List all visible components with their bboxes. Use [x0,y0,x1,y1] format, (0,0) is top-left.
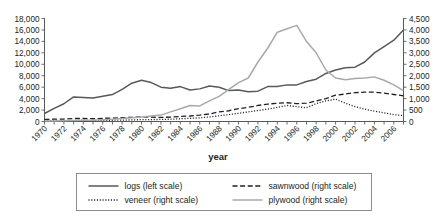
legend-label: veneer (right scale) [125,195,199,205]
line-chart: 02,0004,0006,0008,00010,00012,00014,0001… [0,0,447,217]
x-axis-tick-label: 1994 [263,124,283,144]
x-axis-tick-label: 1984 [166,124,186,144]
x-axis-tick-label: 1990 [224,124,244,144]
left-axis-tick-label: 18,000 [14,15,39,24]
right-axis-tick-label: 1,000 [409,95,430,104]
left-axis-tick-label: 8,000 [19,72,40,81]
right-axis-tick-label: 0 [409,118,414,127]
x-axis-tick-label: 1998 [302,124,322,144]
right-axis-tick-label: 4,500 [409,15,430,24]
x-axis-tick-label: 1988 [205,124,225,144]
left-axis-tick-label: 12,000 [14,49,39,58]
x-axis-tick-label: 2004 [360,124,380,144]
x-axis-tick-label: 2006 [379,124,399,144]
right-axis-tick-label: 4,000 [409,26,430,35]
right-axis-tick-label: 1,500 [409,83,430,92]
x-axis-tick-label: 1972 [49,124,69,144]
x-axis-tick-label: 1996 [282,124,302,144]
x-axis-tick-label: 1980 [127,124,147,144]
right-axis-tick-label: 3,500 [409,37,430,46]
x-axis-tick-label: 1976 [88,124,108,144]
left-axis-tick-label: 0 [35,118,40,127]
legend-label: logs (left scale) [125,181,183,191]
series-line-veneer [45,99,404,121]
left-axis-tick-label: 2,000 [19,106,40,115]
series-line-logs [45,30,404,114]
x-axis-title: year [208,151,228,162]
right-axis-tick-label: 2,000 [409,72,430,81]
right-axis-tick-label: 500 [409,106,423,115]
right-axis-tick-label: 3,000 [409,49,430,58]
x-axis-tick-label: 2000 [321,124,341,144]
left-axis-tick-label: 6,000 [19,83,40,92]
legend-label: plywood (right scale) [269,195,348,205]
left-axis-tick-label: 14,000 [14,37,39,46]
left-axis-tick-label: 16,000 [14,26,39,35]
right-axis-tick-label: 2,500 [409,60,430,69]
x-axis-tick-label: 1986 [185,124,205,144]
left-axis-tick-label: 4,000 [19,95,40,104]
x-axis-tick-label: 1970 [30,124,50,144]
x-axis-tick-label: 1978 [107,124,127,144]
x-axis-tick-label: 1974 [69,124,89,144]
x-axis-tick-label: 1982 [146,124,166,144]
x-axis-tick-label: 2002 [340,124,360,144]
legend-label: sawnwood (right scale) [269,181,357,191]
series-line-plywood [45,25,404,121]
chart-container: 02,0004,0006,0008,00010,00012,00014,0001… [0,0,447,217]
left-axis-tick-label: 10,000 [14,60,39,69]
x-axis-tick-label: 1992 [243,124,263,144]
